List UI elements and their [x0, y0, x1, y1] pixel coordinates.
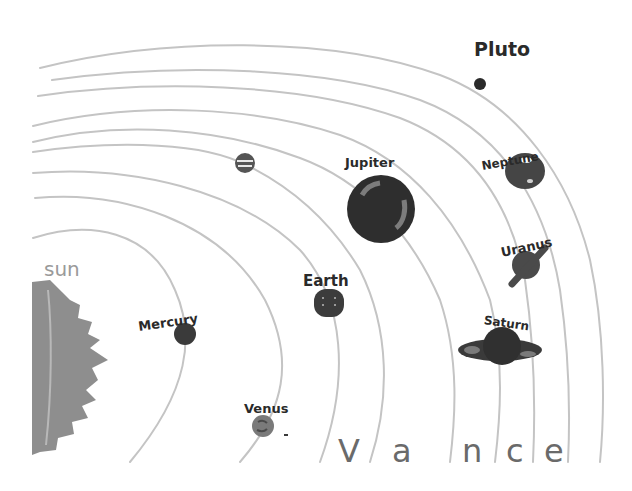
- planet-mars: [235, 153, 255, 173]
- earth-icon: [314, 289, 344, 317]
- venus-icon: [252, 415, 274, 437]
- saturn-ring-highlight-left: [464, 346, 480, 354]
- saturn-ring-highlight-right: [520, 351, 536, 357]
- pluto-icon: [474, 78, 486, 90]
- jupiter-label: Jupiter: [344, 155, 395, 170]
- pluto-label: Pluto: [474, 38, 530, 60]
- solar-system-drawing: sun Mercury Venus Earth Jupiter: [0, 0, 632, 491]
- sun-label: sun: [44, 257, 80, 281]
- moon-dot: [284, 434, 288, 436]
- mars-icon: [235, 153, 255, 173]
- scan-margin: [0, 463, 632, 491]
- venus-label: Venus: [244, 401, 289, 416]
- saturn-icon: [483, 327, 521, 365]
- neptune-spot: [527, 179, 533, 183]
- earth-label: Earth: [303, 272, 349, 290]
